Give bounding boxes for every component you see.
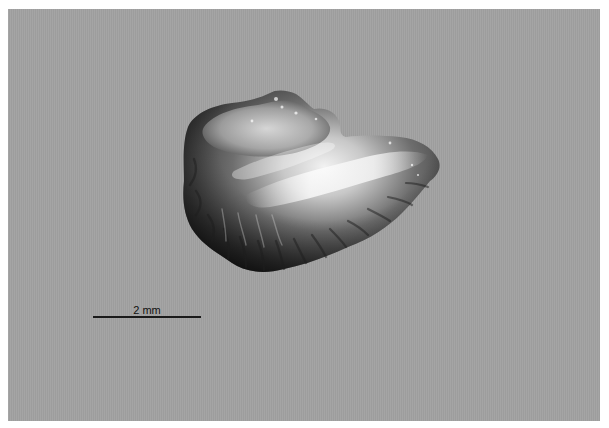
scale-bar: 2 mm [93,305,203,321]
specimen-image [8,9,600,421]
photo-frame: 2 mm [8,9,600,421]
scale-bar-line [93,316,201,318]
scale-bar-label: 2 mm [93,305,201,316]
